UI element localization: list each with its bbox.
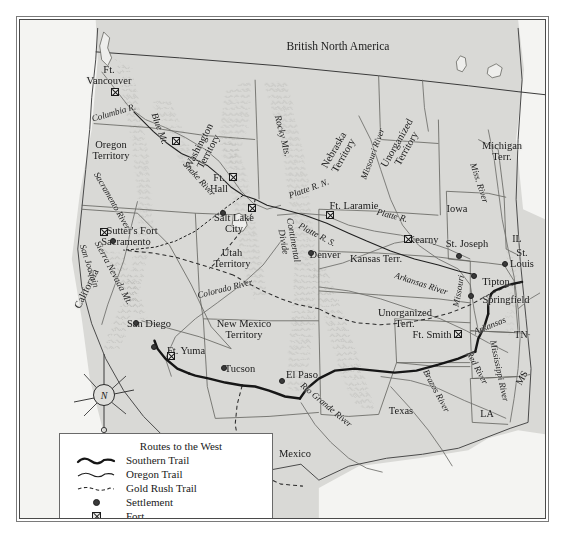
fort-marker-ft-bridger bbox=[248, 204, 256, 212]
map-legend: Routes to the West Southern Trail Oregon… bbox=[59, 433, 273, 519]
settlement-marker-el-paso bbox=[279, 378, 285, 384]
legend-label-oregon-trail: Oregon Trail bbox=[120, 468, 183, 480]
legend-row-fort: Fort bbox=[60, 509, 272, 519]
map-plate: N Routes to the West Southern Trail bbox=[19, 19, 546, 519]
settlement-marker-unnamed-baja bbox=[151, 344, 157, 350]
settlement-marker-sacramento bbox=[110, 238, 116, 244]
fort-marker-ft-laramie bbox=[326, 211, 334, 219]
settlement-marker-tucson bbox=[221, 365, 227, 371]
settlement-marker-st-joseph bbox=[456, 253, 462, 259]
settlement-marker-salt-lake-city bbox=[220, 210, 226, 216]
legend-label-gold-rush-trail: Gold Rush Trail bbox=[120, 482, 197, 494]
fort-marker-ft-kearny bbox=[404, 235, 412, 243]
legend-label-southern-trail: Southern Trail bbox=[120, 454, 189, 466]
settlement-marker-denver bbox=[308, 250, 314, 256]
fort-marker-sutters-fort bbox=[100, 228, 108, 236]
settlement-marker-springfield bbox=[468, 293, 474, 299]
settlement-swatch-icon bbox=[72, 495, 120, 509]
gold-rush-trail-swatch-icon bbox=[72, 481, 120, 495]
fort-marker-ft-walla bbox=[172, 137, 180, 145]
legend-title: Routes to the West bbox=[60, 440, 272, 452]
oregon-trail-swatch-icon bbox=[72, 467, 120, 481]
historical-map-figure: N Routes to the West Southern Trail bbox=[0, 0, 567, 540]
legend-row-settlement: Settlement bbox=[60, 495, 272, 509]
settlement-marker-st-louis bbox=[502, 261, 508, 267]
legend-label-settlement: Settlement bbox=[120, 496, 173, 508]
legend-row-oregon-trail: Oregon Trail bbox=[60, 467, 272, 481]
fort-marker-ft-hall bbox=[229, 173, 237, 181]
legend-row-southern-trail: Southern Trail bbox=[60, 453, 272, 467]
settlement-marker-tipton bbox=[471, 273, 477, 279]
compass-rose: N bbox=[72, 352, 146, 438]
legend-label-fort: Fort bbox=[120, 510, 144, 519]
fort-marker-ft-vancouver bbox=[111, 88, 119, 96]
settlement-marker-san-diego bbox=[133, 320, 139, 326]
fort-swatch-icon bbox=[72, 509, 120, 519]
fort-marker-ft-yuma bbox=[167, 352, 175, 360]
southern-trail-swatch-icon bbox=[72, 453, 120, 467]
fort-marker-ft-smith bbox=[454, 330, 462, 338]
compass-north-label: N bbox=[93, 384, 115, 406]
legend-row-gold-rush-trail: Gold Rush Trail bbox=[60, 481, 272, 495]
